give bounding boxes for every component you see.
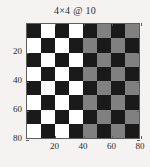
y-axis-tick	[137, 111, 140, 112]
grid-cell	[111, 110, 125, 124]
grid-cell	[55, 67, 69, 81]
grid-cell	[55, 110, 69, 124]
chart-title: 4×4 @ 10	[0, 5, 150, 16]
grid-cell	[111, 24, 125, 38]
grid-cell	[41, 67, 55, 81]
grid-cell	[55, 53, 69, 67]
grid-cell	[69, 81, 83, 95]
grid-cell	[55, 124, 69, 138]
grid-cell	[111, 53, 125, 67]
grid-cell	[41, 38, 55, 52]
checkerboard-grid	[27, 24, 139, 138]
grid-cell	[111, 38, 125, 52]
x-axis-tick	[112, 23, 113, 26]
grid-cell	[55, 81, 69, 95]
grid-cell	[69, 24, 83, 38]
grid-cell	[27, 53, 41, 67]
y-axis-tick	[26, 82, 29, 83]
grid-cell	[97, 81, 111, 95]
grid-cell	[97, 67, 111, 81]
grid-cell	[27, 124, 41, 138]
grid-cell	[97, 24, 111, 38]
grid-cell	[69, 124, 83, 138]
plot-area	[26, 23, 140, 139]
grid-cell	[27, 67, 41, 81]
grid-cell	[97, 53, 111, 67]
grid-cell	[83, 24, 97, 38]
grid-cell	[55, 24, 69, 38]
x-axis-tick	[112, 136, 113, 139]
grid-cell	[27, 81, 41, 95]
grid-cell	[97, 124, 111, 138]
grid-cell	[27, 24, 41, 38]
x-tick-label: 60	[100, 141, 124, 151]
x-axis-tick	[55, 23, 56, 26]
grid-cell	[97, 95, 111, 109]
grid-cell	[125, 110, 139, 124]
grid-cell	[41, 95, 55, 109]
grid-cell	[125, 38, 139, 52]
y-tick-label: 20	[2, 46, 22, 56]
grid-cell	[41, 81, 55, 95]
y-axis-tick	[26, 140, 29, 141]
grid-cell	[69, 95, 83, 109]
grid-cell	[125, 81, 139, 95]
grid-cell	[83, 53, 97, 67]
grid-cell	[83, 95, 97, 109]
grid-cell	[41, 24, 55, 38]
grid-cell	[111, 67, 125, 81]
x-axis-tick	[84, 136, 85, 139]
x-axis-tick	[55, 136, 56, 139]
grid-cell	[125, 95, 139, 109]
y-axis-tick	[137, 53, 140, 54]
y-tick-label: 80	[2, 133, 22, 143]
chart-figure: 4×4 @ 10 20406080 20406080	[0, 0, 150, 167]
grid-cell	[111, 95, 125, 109]
grid-cell	[69, 110, 83, 124]
grid-cell	[111, 81, 125, 95]
y-axis-tick	[137, 82, 140, 83]
x-tick-label: 20	[43, 141, 67, 151]
grid-cell	[41, 124, 55, 138]
grid-cell	[125, 67, 139, 81]
grid-cell	[41, 110, 55, 124]
grid-cell	[41, 53, 55, 67]
x-tick-label: 80	[128, 141, 150, 151]
x-axis-tick	[141, 23, 142, 26]
grid-cell	[83, 81, 97, 95]
grid-cell	[69, 38, 83, 52]
y-tick-label: 40	[2, 75, 22, 85]
x-axis-tick	[141, 136, 142, 139]
grid-cell	[27, 95, 41, 109]
y-tick-label: 60	[2, 104, 22, 114]
grid-cell	[83, 38, 97, 52]
grid-cell	[69, 53, 83, 67]
y-axis-tick	[26, 111, 29, 112]
grid-cell	[83, 67, 97, 81]
grid-cell	[111, 124, 125, 138]
grid-cell	[55, 95, 69, 109]
grid-cell	[125, 53, 139, 67]
grid-cell	[27, 110, 41, 124]
grid-cell	[69, 67, 83, 81]
x-axis-tick	[84, 23, 85, 26]
y-axis-tick	[26, 53, 29, 54]
grid-cell	[125, 24, 139, 38]
grid-cell	[97, 38, 111, 52]
grid-cell	[83, 110, 97, 124]
grid-cell	[27, 38, 41, 52]
grid-cell	[83, 124, 97, 138]
grid-cell	[125, 124, 139, 138]
grid-cell	[55, 38, 69, 52]
grid-cell	[97, 110, 111, 124]
x-tick-label: 40	[71, 141, 95, 151]
